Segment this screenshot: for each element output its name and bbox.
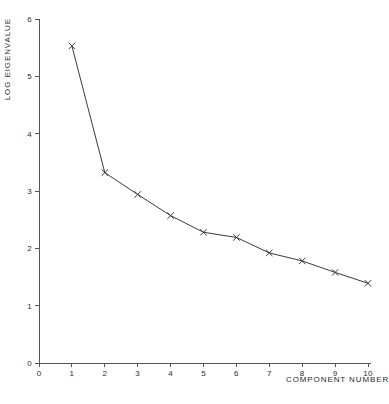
x-tick-label: 8 bbox=[300, 369, 305, 378]
x-tick-label: 1 bbox=[70, 369, 75, 378]
data-point-marker bbox=[332, 269, 338, 275]
x-tick-label: 3 bbox=[135, 369, 140, 378]
x-tick-label: 4 bbox=[168, 369, 173, 378]
x-tick-label: 7 bbox=[267, 369, 272, 378]
x-tick-label: 9 bbox=[333, 369, 338, 378]
y-tick-label: 1 bbox=[18, 301, 32, 310]
y-axis-title: LOG EIGENVALUE bbox=[3, 18, 12, 100]
data-point-marker bbox=[266, 250, 272, 256]
x-tick-label: 5 bbox=[201, 369, 206, 378]
y-tick-label: 3 bbox=[18, 187, 32, 196]
x-tick-label: 0 bbox=[37, 369, 42, 378]
y-tick-label: 6 bbox=[18, 15, 32, 24]
data-point-marker bbox=[365, 280, 371, 286]
x-tick-label: 10 bbox=[363, 369, 372, 378]
data-series-line bbox=[72, 46, 368, 283]
data-point-marker bbox=[299, 258, 305, 264]
y-tick-label: 2 bbox=[18, 244, 32, 253]
y-tick-label: 4 bbox=[18, 129, 32, 138]
data-point-marker bbox=[135, 191, 141, 197]
data-point-marker bbox=[167, 212, 173, 218]
data-point-marker bbox=[102, 169, 108, 175]
x-tick-label: 2 bbox=[102, 369, 107, 378]
x-tick-label: 6 bbox=[234, 369, 239, 378]
y-tick-label: 5 bbox=[18, 72, 32, 81]
y-tick-label: 0 bbox=[18, 359, 32, 368]
data-point-marker bbox=[69, 43, 75, 49]
